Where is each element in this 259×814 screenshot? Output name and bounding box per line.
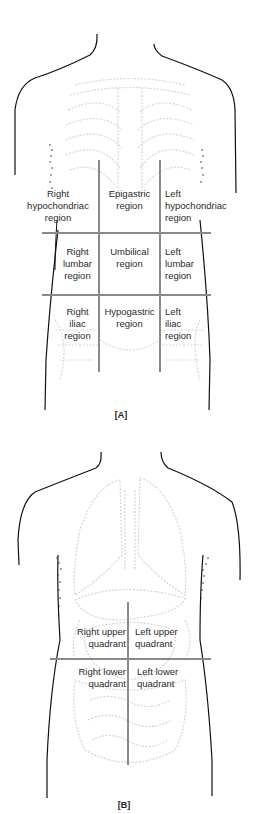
label-left-iliac: Left iliac region — [160, 306, 210, 342]
label-left-lumbar: Left lumbar region — [160, 246, 210, 282]
label-line: quadrant — [62, 638, 126, 650]
label-line: Left — [165, 188, 247, 200]
label-hypogastric: Hypogastric region — [100, 306, 159, 330]
label-line: region — [165, 330, 210, 342]
figure-caption-b: [B] — [104, 800, 144, 810]
label-right-iliac: Right iliac region — [55, 306, 100, 342]
label-line: region — [55, 330, 100, 342]
label-left-lower-quadrant: Left lower quadrant — [132, 666, 201, 690]
label-line: region — [165, 212, 247, 224]
torso-outline-b — [0, 430, 259, 814]
label-line: region — [165, 270, 210, 282]
label-line: quadrant — [135, 638, 199, 650]
quadrant-line-horizontal — [50, 658, 211, 660]
label-line: hypochondriac — [165, 200, 247, 212]
label-left-upper-quadrant: Left upper quadrant — [132, 626, 199, 650]
label-line: Right upper — [62, 626, 126, 638]
label-line: quadrant — [62, 678, 126, 690]
label-line: quadrant — [137, 678, 201, 690]
label-line: region — [18, 212, 98, 224]
label-line: Left lower — [137, 666, 201, 678]
label-epigastric: Epigastric region — [100, 188, 159, 212]
label-line: Umbilical — [100, 246, 159, 258]
grid-line-horizontal-upper — [42, 232, 211, 234]
label-line: Right — [18, 188, 98, 200]
figure-caption-a: [A] — [101, 410, 141, 420]
figure-b-four-quadrants: Right upper quadrant Left upper quadrant… — [0, 430, 259, 814]
label-line: Hypogastric — [100, 306, 159, 318]
label-line: hypochondriac — [18, 200, 98, 212]
label-line: Left — [165, 306, 210, 318]
label-line: region — [100, 318, 159, 330]
label-right-lumbar: Right lumbar region — [55, 246, 100, 282]
label-line: region — [100, 258, 159, 270]
label-right-hypochondriac: Right hypochondriac region — [18, 188, 98, 224]
label-line: Left — [165, 246, 210, 258]
label-line: lumbar — [165, 258, 210, 270]
label-line: iliac — [165, 318, 210, 330]
label-line: Epigastric — [100, 188, 159, 200]
grid-line-horizontal-lower — [42, 294, 211, 296]
label-left-hypochondriac: Left hypochondriac region — [160, 188, 247, 224]
label-line: Right — [55, 246, 100, 258]
label-line: Right lower — [62, 666, 126, 678]
organ-shading — [73, 478, 190, 763]
label-line: lumbar — [55, 258, 100, 270]
label-line: Right — [55, 306, 100, 318]
quadrant-line-vertical — [127, 602, 129, 765]
label-line: Left upper — [135, 626, 199, 638]
label-umbilical: Umbilical region — [100, 246, 159, 270]
label-line: region — [55, 270, 100, 282]
figure-a-nine-regions: Right hypochondriac region Epigastric re… — [0, 0, 259, 430]
label-line: iliac — [55, 318, 100, 330]
label-line: region — [100, 200, 159, 212]
label-right-lower-quadrant: Right lower quadrant — [62, 666, 126, 690]
label-right-upper-quadrant: Right upper quadrant — [62, 626, 126, 650]
